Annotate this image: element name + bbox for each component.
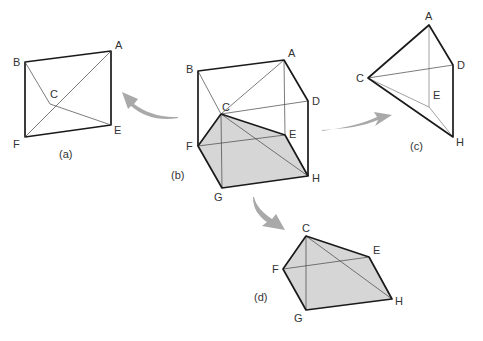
vertex-label-a: A xyxy=(425,10,433,22)
vertex-label-f: F xyxy=(13,138,20,150)
caption-d: (d) xyxy=(254,291,267,303)
vertex-label-e: E xyxy=(114,124,121,136)
arrow-to-d-icon xyxy=(253,197,285,230)
panel-a: B A C E F (a) xyxy=(13,39,123,160)
vertex-label-a: A xyxy=(115,39,123,51)
caption-c: (c) xyxy=(410,140,423,152)
vertex-label-e: E xyxy=(373,244,380,256)
vertex-label-h: H xyxy=(456,136,464,148)
vertex-label-c: C xyxy=(50,88,58,100)
caption-b: (b) xyxy=(171,169,184,181)
edge-b-c xyxy=(198,71,221,114)
edge-b-c xyxy=(25,62,50,104)
caption-a: (a) xyxy=(59,148,72,160)
vertex-label-f: F xyxy=(272,263,279,275)
vertex-label-g: G xyxy=(214,191,223,203)
cube-dissection-diagram: B A C E F (a) B A C D E F G H (b) xyxy=(0,0,483,341)
panel-b: B A C D E F G H (b) xyxy=(171,47,320,203)
edge-c-e xyxy=(50,104,111,125)
vertex-label-c: C xyxy=(222,101,230,113)
vertex-label-b: B xyxy=(186,63,193,75)
vertex-label-h: H xyxy=(312,172,320,184)
vertex-label-c: C xyxy=(356,72,364,84)
edge-c-e-hidden xyxy=(368,78,429,107)
edge-a-f xyxy=(25,51,111,137)
vertex-label-e: E xyxy=(289,128,296,140)
panel-c: A C D E H (c) xyxy=(356,10,465,152)
vertex-label-f: F xyxy=(186,140,193,152)
vertex-label-c: C xyxy=(302,222,310,234)
vertex-label-e: E xyxy=(433,89,440,101)
vertex-label-g: G xyxy=(294,312,303,324)
panel-d: C E F H G (d) xyxy=(254,222,403,324)
vertex-label-h: H xyxy=(395,295,403,307)
arrow-to-c-icon xyxy=(322,112,392,131)
vertex-label-b: B xyxy=(13,56,20,68)
vertex-label-d: D xyxy=(457,59,465,71)
edge-a-e xyxy=(284,60,285,135)
arrow-to-a-icon xyxy=(122,92,178,119)
vertex-label-a: A xyxy=(288,47,296,59)
vertex-label-d: D xyxy=(312,95,320,107)
